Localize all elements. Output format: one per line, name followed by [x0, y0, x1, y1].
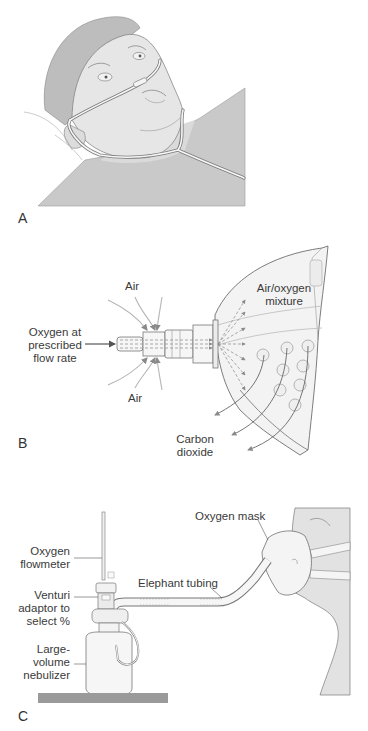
label-air-top: Air — [125, 280, 139, 293]
label-oxygen-mask: Oxygen mask — [195, 510, 265, 523]
panel-a: A — [0, 0, 368, 235]
label-elephant-tubing: Elephant tubing — [138, 577, 218, 590]
nasal-cannula-illustration — [0, 0, 368, 235]
label-air-bottom: Air — [128, 392, 142, 405]
label-oxygen-inlet: Oxygen at prescribed flow rate — [26, 326, 84, 365]
panel-letter-c: C — [18, 708, 28, 724]
panel-b: Oxygen at prescribed flow rate Air Air A… — [0, 240, 368, 475]
label-air-oxygen-mixture: Air/oxygen mixture — [254, 282, 314, 308]
label-venturi-adaptor: Venturi adaptor to select % — [10, 589, 70, 628]
label-large-volume-nebulizer: Large- volume nebulizer — [10, 643, 70, 682]
label-carbon-dioxide: Carbon dioxide — [172, 433, 218, 459]
label-oxygen-flowmeter: Oxygen flowmeter — [10, 545, 70, 571]
panel-c: Oxygen flowmeter Venturi adaptor to sele… — [0, 480, 368, 731]
panel-letter-a: A — [18, 210, 27, 226]
panel-letter-b: B — [18, 435, 27, 451]
